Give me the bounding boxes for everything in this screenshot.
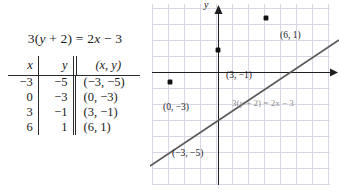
table-row: 6 1 (6, 1) <box>8 120 140 135</box>
column-divider-2a <box>73 56 74 75</box>
column-divider-1 <box>38 120 39 135</box>
table-row: 3 −1 (3, −1) <box>8 105 140 120</box>
point-label-neg3-neg5: (−3, −5) <box>172 148 203 158</box>
equation-mid: + 2) = 2 <box>46 31 95 46</box>
column-divider-2a <box>73 90 74 105</box>
equation-tail: − 3 <box>100 31 122 46</box>
data-point <box>168 80 173 85</box>
line-equation-annotation: 3(y + 2) = 2x − 3 <box>232 98 294 108</box>
equation-heading: 3(y + 2) = 2x − 3 <box>9 31 141 47</box>
table-row: −3 −5 (−3, −5) <box>8 75 140 90</box>
point-label-0-neg3: (0, −3) <box>163 102 189 112</box>
point-label-3-neg1: (3, −1) <box>226 70 252 80</box>
graph-canvas <box>150 0 339 193</box>
column-divider-2a <box>73 75 74 90</box>
column-header-x: x <box>8 59 38 72</box>
column-divider-1 <box>38 75 39 90</box>
cell-x: 0 <box>8 91 38 104</box>
cell-pair: (0, −3) <box>76 91 140 104</box>
table-panel: 3(y + 2) = 2x − 3 x y (x, y) −3 −5 <box>0 0 150 193</box>
cell-x: 3 <box>8 106 38 119</box>
column-divider-1 <box>38 90 39 105</box>
column-divider-2a <box>73 105 74 120</box>
equation-lead: 3( <box>28 31 40 46</box>
table-row: 0 −3 (0, −3) <box>8 90 140 105</box>
point-label-6-1: (6, 1) <box>280 30 301 40</box>
figure-root: 3(y + 2) = 2x − 3 x y (x, y) −3 −5 <box>0 0 339 193</box>
cell-x: −3 <box>8 76 38 89</box>
cell-y: −3 <box>43 91 73 104</box>
cell-y: −1 <box>43 106 73 119</box>
cell-y: 1 <box>43 121 73 134</box>
value-table: x y (x, y) −3 −5 (−3, −5) 0 <box>8 56 140 135</box>
cell-pair: (6, 1) <box>76 121 140 134</box>
column-divider-2a <box>73 120 74 135</box>
y-axis <box>215 5 223 185</box>
data-point <box>264 16 269 21</box>
cell-y: −5 <box>43 76 73 89</box>
column-header-y: y <box>43 59 73 72</box>
column-header-pair: (x, y) <box>77 59 140 72</box>
cell-pair: (−3, −5) <box>76 76 140 89</box>
cell-x: 6 <box>8 121 38 134</box>
column-divider-1 <box>38 105 39 120</box>
cell-pair: (3, −1) <box>76 106 140 119</box>
table-header-rule <box>8 75 140 76</box>
data-point <box>216 48 221 53</box>
column-divider-1 <box>38 56 39 75</box>
table-header-row: x y (x, y) <box>8 56 140 75</box>
y-axis-label: y <box>204 0 208 10</box>
coordinate-graph: y (−3, −5) (0, −3) (3, −1) (6, 1) 3(y + … <box>150 0 339 193</box>
